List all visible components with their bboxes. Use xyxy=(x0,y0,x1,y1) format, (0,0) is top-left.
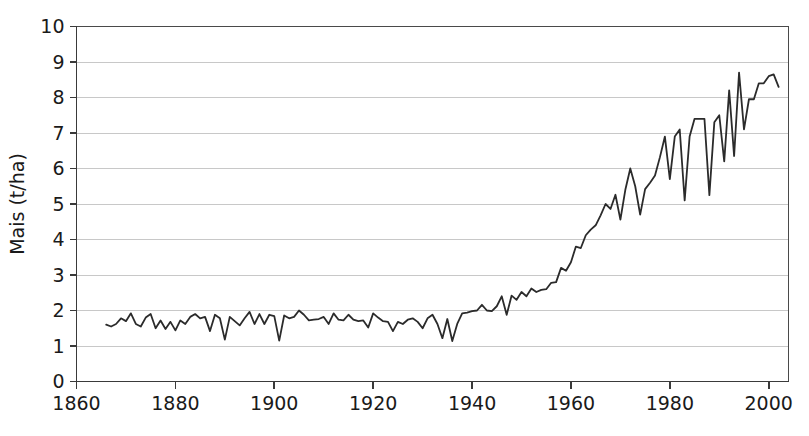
chart-figure: 18601880190019201940196019802000 0123456… xyxy=(0,0,809,436)
y-tick-label-0: 0 xyxy=(52,370,64,392)
y-tick-marks-group xyxy=(70,27,77,382)
y-axis-title: Mais (t/ha) xyxy=(6,153,28,255)
x-tick-label-1920: 1920 xyxy=(349,392,397,414)
x-tick-marks-group xyxy=(77,382,769,389)
y-tick-labels-group: 012345678910 xyxy=(40,15,64,392)
x-tick-label-1940: 1940 xyxy=(448,392,496,414)
gridlines-group xyxy=(77,62,789,346)
x-tick-label-1980: 1980 xyxy=(646,392,694,414)
y-tick-label-1: 1 xyxy=(52,335,64,357)
x-tick-label-1860: 1860 xyxy=(52,392,100,414)
y-tick-label-3: 3 xyxy=(52,264,64,286)
x-tick-labels-group: 18601880190019201940196019802000 xyxy=(52,392,793,414)
y-tick-label-9: 9 xyxy=(52,51,64,73)
maize-yield-series-line xyxy=(106,73,778,341)
y-tick-label-8: 8 xyxy=(52,86,64,108)
y-tick-label-2: 2 xyxy=(52,299,64,321)
x-tick-label-1960: 1960 xyxy=(547,392,595,414)
x-tick-label-1900: 1900 xyxy=(250,392,298,414)
x-tick-label-2000: 2000 xyxy=(745,392,793,414)
x-tick-label-1880: 1880 xyxy=(151,392,199,414)
y-tick-label-10: 10 xyxy=(40,15,64,37)
y-tick-label-5: 5 xyxy=(52,193,64,215)
maize-yield-line-chart: 18601880190019201940196019802000 0123456… xyxy=(0,0,809,436)
y-tick-label-6: 6 xyxy=(52,157,64,179)
y-tick-label-7: 7 xyxy=(52,122,64,144)
y-tick-label-4: 4 xyxy=(52,228,64,250)
